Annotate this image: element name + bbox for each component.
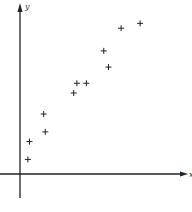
- data-point: [71, 90, 77, 96]
- data-point: [26, 139, 32, 145]
- data-point: [118, 25, 124, 31]
- data-point: [83, 80, 89, 86]
- data-point: [105, 64, 111, 70]
- data-point: [101, 48, 107, 54]
- data-point: [137, 20, 143, 26]
- y-axis-arrow-icon: [18, 3, 23, 12]
- scatter-chart: y x: [0, 0, 192, 212]
- data-point: [41, 111, 47, 117]
- x-axis-label: x: [189, 170, 192, 179]
- x-axis-arrow-icon: [180, 172, 188, 177]
- y-axis-label: y: [24, 2, 30, 11]
- data-point: [74, 80, 80, 86]
- data-point: [25, 156, 31, 162]
- data-point: [42, 129, 48, 135]
